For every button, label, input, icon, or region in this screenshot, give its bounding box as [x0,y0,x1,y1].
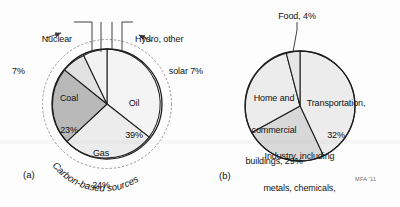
panel-tag-a: (a) [23,169,35,180]
leader-line-food [293,22,297,52]
label-gas-line1: Gas [82,148,120,159]
label-gas-line2: 24% [82,180,120,191]
label-food: Food, 4% [250,11,344,22]
label-industry-line1: Industry, including [247,151,352,162]
label-industry: Industry, including metals, chemicals, a… [247,130,352,207]
label-industry-line2: metals, chemicals, [247,183,352,194]
label-nuclear-line1: Nuclear [4,34,72,45]
panel-tag-b: (b) [219,170,231,181]
label-oil-line1: Oil [117,98,151,109]
label-hydro-line1: Hydro, other [135,34,215,45]
label-hydro-line2: solar 7% [135,66,215,77]
leader-line-hydro [122,22,133,52]
label-home-line1: Home and [235,93,313,104]
label-gas: Gas 24% [82,127,120,207]
label-transportation-line1: Transportation, [305,98,367,109]
figure-two-pie-charts: Carbon-based sources Nuclear 7% Hydro, o… [0,0,400,207]
label-oil-line2: 39% [117,130,151,141]
label-oil: Oil 39% [117,77,151,161]
figure-credit: MFA '11 [355,176,376,182]
leader-line-nuclear [74,22,92,51]
label-coal-line1: Coal [48,93,90,104]
